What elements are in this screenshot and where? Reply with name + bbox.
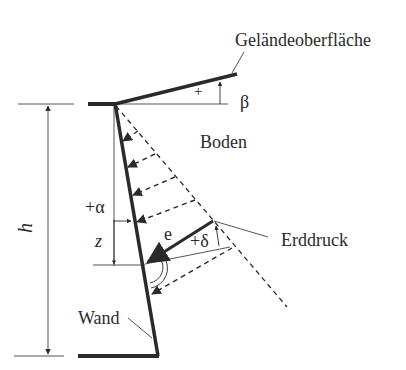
slope-sign-label: + (194, 84, 202, 99)
soil-label: Boden (200, 133, 247, 151)
earth-pressure-label: Erddruck (281, 231, 348, 249)
wall-label: Wand (78, 309, 120, 327)
diagram-graphics (0, 0, 406, 370)
earth-pressure-diagram: Geländeoberfläche + β Boden +α z e +δ Er… (0, 0, 406, 370)
wall-angle-label: +α (85, 198, 105, 216)
ground-surface-label: Geländeoberfläche (235, 31, 371, 49)
depth-label: z (95, 232, 102, 250)
pressure-vector-label: e (164, 225, 172, 243)
pressure-arrows (123, 131, 232, 294)
slope-angle-label: β (240, 93, 249, 111)
wall-leader-line (128, 318, 152, 338)
friction-angle-label: +δ (190, 232, 209, 250)
height-label: h (15, 223, 35, 233)
